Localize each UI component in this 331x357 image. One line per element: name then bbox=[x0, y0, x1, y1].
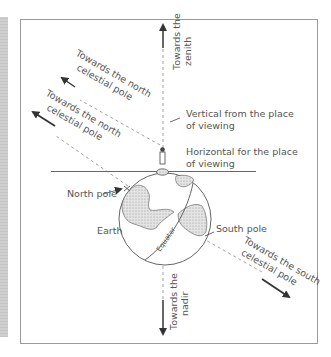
svg-text:nadir: nadir bbox=[179, 291, 190, 316]
label-north-pole: North pole bbox=[67, 188, 117, 199]
label-nadir: Towards the nadir bbox=[168, 273, 190, 331]
label-horizontal-1: Horizontal for the place bbox=[186, 146, 298, 157]
svg-text:zenith: zenith bbox=[182, 37, 193, 66]
north-pole-marker-icon bbox=[124, 186, 130, 191]
svg-text:Towards the: Towards the bbox=[168, 273, 179, 331]
label-horizontal-2: of viewing bbox=[186, 158, 235, 169]
observer-figure-icon bbox=[157, 147, 169, 175]
label-south-celestial: Towards the south celestial pole bbox=[235, 234, 322, 298]
svg-text:Towards the: Towards the bbox=[171, 13, 182, 71]
celestial-sphere-diagram: Towards the zenith Towards the north cel… bbox=[0, 0, 331, 357]
label-north-celestial-lower: Towards the north celestial pole bbox=[37, 87, 123, 150]
label-vertical-1: Vertical from the place bbox=[186, 108, 294, 119]
label-zenith: Towards the zenith bbox=[171, 13, 193, 71]
label-south-pole: South pole bbox=[216, 223, 267, 234]
vertical-pointer-icon bbox=[170, 118, 180, 122]
label-earth: Earth bbox=[97, 225, 122, 236]
label-vertical-2: of viewing bbox=[186, 120, 235, 131]
north-celestial-arrow-upper-icon bbox=[62, 78, 75, 87]
